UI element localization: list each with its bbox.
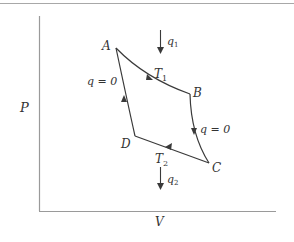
heat-in-arrowhead-icon xyxy=(157,47,164,54)
adiabat-label-da: q = 0 xyxy=(87,75,117,88)
isotherm-label-t1: T1 xyxy=(154,67,167,83)
point-label-a: A xyxy=(101,39,111,53)
point-label-d: D xyxy=(120,137,131,151)
point-label-b: B xyxy=(192,86,202,100)
x-axis-label: V xyxy=(155,215,165,229)
point-label-c: C xyxy=(212,161,221,175)
process-d-to-a-adiabat xyxy=(116,48,135,136)
heat-out-label: q2 xyxy=(167,173,179,187)
process-a-to-b-isotherm xyxy=(116,48,190,94)
isotherm-label-t2: T2 xyxy=(155,152,168,168)
y-axis-label: P xyxy=(19,100,29,115)
heat-out-arrowhead-icon xyxy=(157,183,164,190)
adiabat-label-bc: q = 0 xyxy=(200,123,230,136)
direction-arrow-icon-cd xyxy=(165,143,172,150)
pv-cycle-diagram: P V A B C D T1 q = 0 q = 0 T2 q1 q2 xyxy=(0,0,294,242)
heat-in-label: q1 xyxy=(167,35,179,49)
